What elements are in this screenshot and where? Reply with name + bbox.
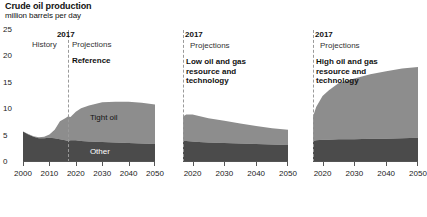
panel-low-resource: 2020203020402050 2017 Projections Low oi… [183, 30, 288, 188]
divider-2017-high-resource [313, 30, 314, 162]
x-axis-tick-label: 2050 [279, 170, 297, 178]
x-axis-tick-label: 2050 [409, 170, 427, 178]
x-axis-tickmark [386, 162, 387, 166]
x-axis-tick-label: 2020 [67, 170, 85, 178]
year-marker-reference: 2017 [57, 30, 75, 39]
x-axis-tickmark [154, 162, 155, 166]
chart-subtitle: million barrels per day [5, 11, 81, 20]
y-axis-tick: 10 [3, 105, 21, 113]
year-marker-low-resource: 2017 [185, 30, 203, 39]
year-marker-high-resource: 2017 [315, 30, 333, 39]
panel-high-resource: 2020203020402050 2017 Projections High o… [313, 30, 418, 188]
x-axis-tick-label: 2030 [345, 170, 363, 178]
x-axis-tick-label: 2040 [377, 170, 395, 178]
x-axis-tickmark [23, 162, 24, 166]
y-axis-tick: 20 [3, 52, 21, 60]
x-axis-tick-label: 2030 [93, 170, 111, 178]
x-axis-tickmark [129, 162, 130, 166]
x-axis-tickmark [287, 162, 288, 166]
x-axis-tickmark [417, 162, 418, 166]
x-axis-tickmark [256, 162, 257, 166]
area-other [313, 138, 418, 162]
x-axis-tick-label: 2040 [120, 170, 138, 178]
plot-area-reference [23, 30, 155, 162]
projections-label-low-resource: Projections [190, 41, 230, 50]
x-axis-tickmark [323, 162, 324, 166]
x-axis-tick-label: 2050 [146, 170, 164, 178]
x-axis-tickmark [49, 162, 50, 166]
divider-2017-low-resource [183, 30, 184, 162]
divider-2017-reference [68, 30, 69, 162]
x-axis-tick-label: 2040 [247, 170, 265, 178]
series-label-other: Other [90, 148, 110, 156]
x-axis-tickmark [193, 162, 194, 166]
scenario-label-reference: Reference [72, 56, 144, 66]
x-axis-tickmark [354, 162, 355, 166]
scenario-label-high-resource: High oil and gas resource and technology [316, 57, 388, 86]
y-axis-tick: 0 [3, 158, 21, 166]
panel-reference: 200020102020203020402050 2017 History Pr… [23, 30, 155, 188]
x-axis-line-reference [23, 161, 155, 162]
x-axis-tickmark [102, 162, 103, 166]
x-axis-tickmark [76, 162, 77, 166]
area-tight-oil [183, 114, 288, 145]
projections-label-high-resource: Projections [320, 41, 360, 50]
x-axis-tickmark [224, 162, 225, 166]
projections-label-reference: Projections [72, 40, 112, 49]
x-axis-line-low-resource [183, 161, 288, 162]
y-axis-tick: 25 [3, 26, 21, 34]
scenario-label-low-resource: Low oil and gas resource and technology [186, 57, 258, 86]
series-label-tight-oil: Tight oil [90, 114, 118, 122]
y-axis-tick: 5 [3, 132, 21, 140]
area-tight-oil [23, 102, 155, 144]
x-axis-tick-label: 2020 [314, 170, 332, 178]
x-axis-tick-label: 2000 [14, 170, 32, 178]
history-label-reference: History [32, 40, 57, 49]
x-axis-tick-label: 2020 [184, 170, 202, 178]
x-axis-tick-label: 2030 [215, 170, 233, 178]
y-axis-tick: 15 [3, 79, 21, 87]
x-axis-tick-label: 2010 [40, 170, 58, 178]
page-title: Crude oil production [5, 1, 92, 11]
x-axis-line-high-resource [313, 161, 418, 162]
